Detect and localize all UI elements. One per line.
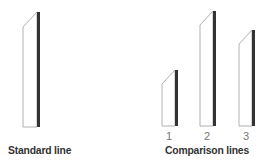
comparison-line-2-number: 2 (200, 130, 214, 142)
comparison-line-2-bar (200, 11, 216, 126)
line-judgment-diagram (0, 0, 270, 164)
comparison-lines-label: Comparison lines (165, 144, 249, 156)
comparison-line-1-number: 1 (162, 130, 176, 142)
standard-line-label: Standard line (8, 144, 71, 156)
comparison-line-3-number: 3 (239, 130, 253, 142)
standard-line-bar (23, 12, 40, 127)
comparison-line-1-bar (162, 70, 178, 126)
comparison-line-3-bar (239, 30, 255, 126)
